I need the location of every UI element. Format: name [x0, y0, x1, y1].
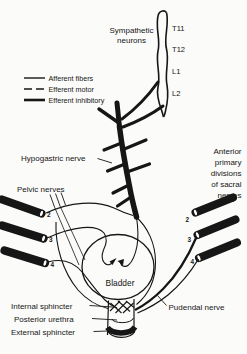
- left-root-bar-3: [2, 226, 44, 239]
- right-root-number-4: 4: [190, 258, 194, 265]
- legend: Afferent fibers Efferent motor Efferent …: [24, 74, 105, 105]
- legend-label-efferent-inhibitory: Efferent inhibitory: [49, 96, 105, 105]
- trunk-branch-downleft: [118, 197, 132, 206]
- sacral-root-bars: 2 3 4: [185, 198, 237, 265]
- left-root-bar-2: [2, 200, 42, 214]
- sacral-label-line4: of sacral: [211, 180, 241, 189]
- internal-sphincter-hatch: [110, 301, 134, 313]
- right-root-number-3: 3: [187, 236, 191, 243]
- spinal-segment-labels: T11 T12 L1 L2: [172, 24, 185, 98]
- external-sphincter-label: External sphincter: [11, 328, 75, 337]
- sympathetic-label-line1: Sympathetic: [109, 26, 153, 35]
- sympathetic-label-line2: neurons: [117, 36, 146, 45]
- hypogastric-label-text: Hypogastric nerve: [21, 154, 86, 163]
- pelvic-root-bars: 2 3 4: [2, 200, 55, 268]
- trunk-branch-right-1: [122, 140, 146, 150]
- pelvic-nerves-label: Pelvic nerves: [17, 185, 85, 265]
- legend-label-afferent: Afferent fibers: [49, 74, 94, 83]
- internal-sphincter-label: Internal sphincter: [11, 302, 73, 311]
- pudendal-main-line: [135, 237, 197, 310]
- left-nerve-ending: [47, 227, 114, 264]
- segment-label-t12: T12: [172, 45, 185, 54]
- sacral-nerves-label: Anterior primary divisions of sacral ner…: [211, 147, 242, 200]
- right-root-bar-3: [198, 220, 236, 236]
- bladder-outline: [82, 235, 154, 300]
- left-root-bar-4: [5, 251, 46, 264]
- spinal-cord-left-edge: [157, 14, 163, 117]
- sacral-label-line5: nerves: [217, 191, 241, 200]
- posterior-urethra-label: Posterior urethra: [14, 315, 74, 324]
- spinal-cord-top: [159, 11, 167, 14]
- sympathetic-trunk: [99, 82, 163, 217]
- external-sphincter-leader: [94, 331, 109, 332]
- hypogastric-nerve-label: Hypogastric nerve: [21, 154, 112, 163]
- bladder-nerve-endings: [47, 217, 138, 266]
- right-nerve-ending: [121, 217, 138, 266]
- pelvic-fiber-lines: [55, 206, 86, 265]
- posterior-urethra-leader: [92, 319, 117, 321]
- segment-label-l1: L1: [172, 67, 180, 76]
- spinal-cord: [157, 11, 168, 117]
- sacral-label-line3: divisions: [211, 169, 242, 178]
- urethra: [108, 299, 136, 337]
- sacral-label-line1: Anterior: [213, 147, 241, 156]
- bladder-innervation-figure: Afferent fibers Efferent motor Efferent …: [0, 0, 247, 354]
- segment-label-t11: T11: [172, 24, 185, 33]
- trunk-branch-left-1: [104, 143, 122, 150]
- legend-label-efferent-motor: Efferent motor: [49, 85, 95, 94]
- pudendal-label: Pudendal nerve: [169, 303, 226, 312]
- trunk-branch-left-2: [108, 164, 126, 171]
- external-sphincter-band: [108, 327, 136, 333]
- bladder-label: Bladder: [106, 278, 135, 288]
- right-root-number-2: 2: [185, 216, 189, 223]
- pelvic-label-text: Pelvic nerves: [17, 185, 65, 194]
- sacral-label-line2: primary: [215, 158, 242, 167]
- pudendal-nerve: Pudendal nerve: [135, 237, 225, 313]
- right-root-bar-2: [196, 198, 234, 213]
- hypogastric-leader-line: [98, 159, 113, 164]
- cord-connector-lower: [123, 106, 163, 127]
- sympathetic-neurons-label: Sympathetic neurons: [109, 26, 153, 45]
- trunk-branch-left-3: [113, 185, 129, 193]
- spinal-cord-right-edge: [164, 13, 168, 118]
- segment-label-l2: L2: [172, 89, 180, 98]
- right-root-bar-4: [199, 243, 237, 259]
- trunk-branch-right-2: [127, 164, 150, 172]
- bladder: Bladder: [82, 235, 154, 300]
- pelvic-leader-ticks: [50, 193, 66, 208]
- anatomy-diagram: Afferent fibers Efferent motor Efferent …: [0, 0, 247, 354]
